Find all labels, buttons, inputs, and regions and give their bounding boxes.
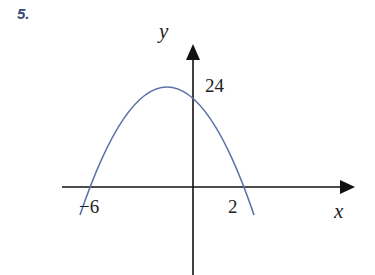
y-axis-label: y <box>157 19 169 43</box>
parabola-graph: y x 24 −6 2 <box>0 0 375 275</box>
root-left-label: −6 <box>79 196 99 217</box>
x-axis-arrow-icon <box>340 180 355 194</box>
y-axis-arrow-icon <box>186 44 200 60</box>
root-right-label: 2 <box>228 196 238 217</box>
y-intercept-label: 24 <box>205 75 225 96</box>
x-axis-label: x <box>333 199 344 223</box>
